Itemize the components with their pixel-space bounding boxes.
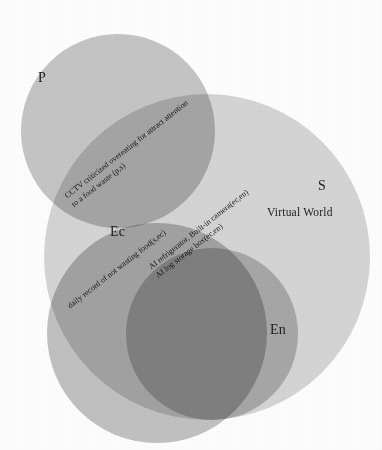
set-circle-en: [126, 248, 298, 420]
venn-canvas: [0, 0, 382, 450]
euler-diagram-figure: P S Virtual World Ec En CCTV criticized …: [0, 0, 382, 450]
